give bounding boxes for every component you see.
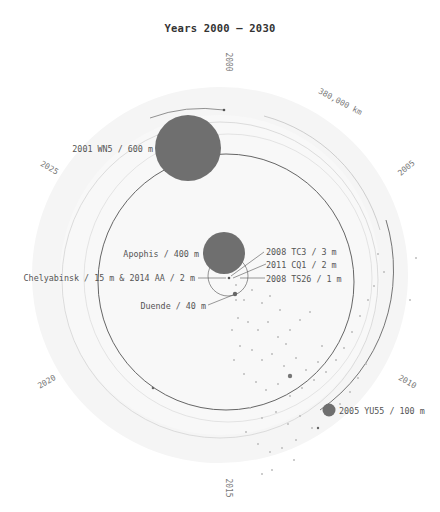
year-2020: 2020 bbox=[36, 373, 57, 391]
label-2001-wn5: 2001 WN5 / 600 m bbox=[72, 144, 153, 154]
label-apophis: Apophis / 400 m bbox=[123, 249, 199, 259]
label-2008-tc3: 2008 TC3 / 3 m bbox=[266, 247, 337, 257]
small-dark-dot-left bbox=[152, 387, 155, 390]
year-2000: 2000 bbox=[224, 52, 233, 71]
year-2010: 2010 bbox=[397, 373, 418, 391]
object-2001-wn5[interactable] bbox=[155, 115, 221, 181]
earth-point bbox=[228, 277, 231, 280]
label-2008-ts26: 2008 TS26 / 1 m bbox=[266, 274, 342, 284]
label-chelyabinsk: Chelyabinsk / 15 m & 2014 AA / 2 m bbox=[24, 273, 195, 283]
wn5-end-dot bbox=[223, 109, 226, 112]
object-2005-yu55[interactable] bbox=[323, 404, 336, 417]
year-2005: 2005 bbox=[396, 158, 417, 177]
radial-chart: 2001 WN5 / 600 m Apophis / 400 m 2008 TC… bbox=[0, 0, 440, 512]
distance-label: 380,000 km bbox=[317, 87, 364, 118]
medium-dot bbox=[288, 374, 292, 378]
label-2011-cq1: 2011 CQ1 / 2 m bbox=[266, 260, 337, 270]
object-apophis[interactable] bbox=[203, 232, 245, 274]
label-duende: Duende / 40 m bbox=[140, 301, 206, 311]
object-duende[interactable] bbox=[233, 292, 237, 296]
year-2015: 2015 bbox=[224, 478, 233, 497]
year-2025: 2025 bbox=[39, 159, 60, 177]
label-2005-yu55: 2005 YU55 / 100 m bbox=[339, 406, 425, 416]
small-dark-dot-bottom bbox=[317, 427, 319, 429]
